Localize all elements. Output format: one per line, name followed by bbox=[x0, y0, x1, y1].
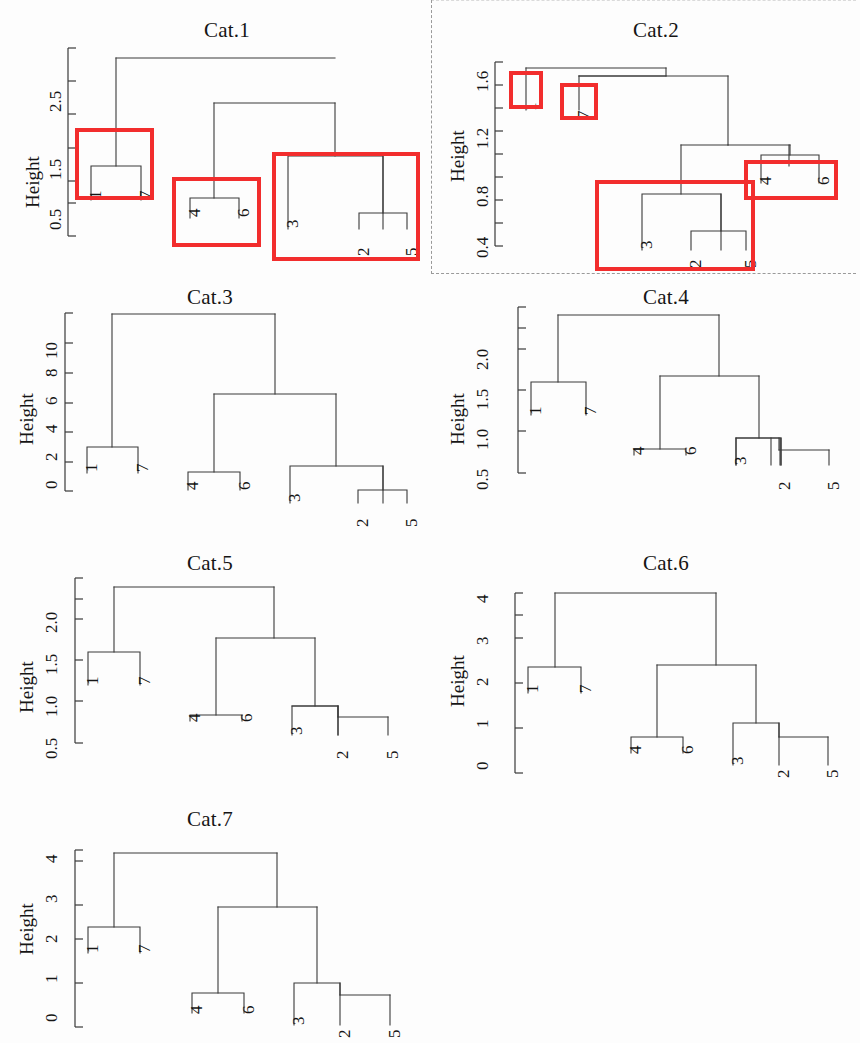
leaf-label-cat6-6: 6 bbox=[678, 746, 698, 755]
leaf-label-cat4-5: 5 bbox=[824, 482, 844, 491]
leaf-label-cat6-1: 1 bbox=[523, 685, 543, 694]
dendrogram-svg-cat4 bbox=[431, 275, 860, 545]
leaf-label-cat6-3: 3 bbox=[728, 757, 748, 766]
leaf-label-cat7-5: 5 bbox=[385, 1030, 405, 1039]
leaf-label-cat5-4: 4 bbox=[185, 714, 205, 723]
panel-cat1: Cat.1 Height 0.5 1.5 2.5 1 7 4 6 3 2 5 bbox=[0, 0, 431, 275]
leaf-label-cat4-2: 2 bbox=[775, 482, 795, 491]
leaf-label-cat7-2: 2 bbox=[335, 1030, 355, 1039]
leaf-label-cat4-7: 7 bbox=[581, 407, 601, 416]
leaf-label-cat6-4: 4 bbox=[626, 746, 646, 755]
highlight-box-cat1-group2[interactable] bbox=[172, 177, 261, 247]
leaf-label-cat3-5: 5 bbox=[402, 519, 422, 528]
dendrogram-svg-cat3 bbox=[0, 275, 431, 545]
leaf-label-cat7-4: 4 bbox=[187, 1006, 207, 1015]
panel-cat4: Cat.4 Height 0.5 1.0 1.5 2.0 bbox=[431, 275, 860, 545]
leaf-label-cat4-1: 1 bbox=[526, 407, 546, 416]
dendrogram-svg-cat6 bbox=[431, 545, 860, 795]
highlight-box-cat2-group2[interactable] bbox=[560, 83, 598, 120]
leaf-label-cat3-4: 4 bbox=[183, 482, 203, 491]
leaf-label-cat5-2: 2 bbox=[333, 751, 353, 760]
leaf-label-cat7-6: 6 bbox=[239, 1006, 259, 1015]
highlight-box-cat2-group3[interactable] bbox=[595, 180, 755, 271]
panel-cat7: Cat.7 Height 0 1 2 3 4 1 7 4 6 3 2 bbox=[0, 795, 431, 1043]
leaf-label-cat5-6: 6 bbox=[237, 714, 257, 723]
panel-cat2: Cat.2 Height 0.4 0.8 1.2 1.6 bbox=[431, 0, 860, 275]
dendrogram-svg-cat5 bbox=[0, 545, 431, 795]
panel-cat6: Cat.6 Height 0 1 2 3 4 1 7 4 6 3 2 bbox=[431, 545, 860, 795]
highlight-box-cat2-group4[interactable] bbox=[744, 160, 838, 200]
leaf-label-cat3-6: 6 bbox=[235, 482, 255, 491]
leaf-label-cat5-3: 3 bbox=[287, 727, 307, 736]
highlight-box-cat1-group1[interactable] bbox=[75, 128, 154, 200]
leaf-label-cat4-4: 4 bbox=[629, 447, 649, 456]
leaf-label-cat5-1: 1 bbox=[83, 677, 103, 686]
panel-cat5: Cat.5 Height 0.5 1.0 1.5 2.0 1 7 bbox=[0, 545, 431, 795]
leaf-label-cat4-6: 6 bbox=[681, 447, 701, 456]
panel-cat3: Cat.3 Height 0 2 4 6 8 10 1 7 4 6 3 bbox=[0, 275, 431, 545]
leaf-label-cat6-2: 2 bbox=[774, 770, 794, 779]
leaf-label-cat3-1: 1 bbox=[82, 464, 102, 473]
leaf-label-cat7-1: 1 bbox=[83, 945, 103, 954]
highlight-box-cat1-group3[interactable] bbox=[272, 152, 420, 261]
leaf-label-cat5-5: 5 bbox=[383, 751, 403, 760]
leaf-label-cat3-2: 2 bbox=[353, 519, 373, 528]
leaf-label-cat6-7: 7 bbox=[576, 685, 596, 694]
leaf-label-cat7-7: 7 bbox=[135, 945, 155, 954]
leaf-label-cat6-5: 5 bbox=[823, 770, 843, 779]
highlight-box-cat2-group1[interactable] bbox=[509, 71, 543, 109]
leaf-label-cat3-7: 7 bbox=[133, 464, 153, 473]
leaf-label-cat7-3: 3 bbox=[289, 1017, 309, 1026]
leaf-label-cat5-7: 7 bbox=[135, 677, 155, 686]
dendrogram-svg-cat7 bbox=[0, 795, 431, 1043]
leaf-label-cat4-3: 3 bbox=[731, 457, 751, 466]
leaf-label-cat3-3: 3 bbox=[285, 494, 305, 503]
